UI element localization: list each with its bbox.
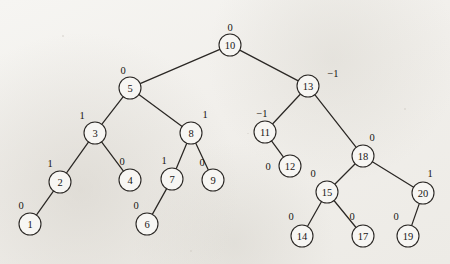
tree-node[interactable]: 13−1 [297,68,339,98]
node-balance-factor-label: 0 [120,65,125,76]
node-key-label: 4 [127,175,133,186]
node-key-label: 12 [285,161,296,172]
tree-edge [272,141,284,157]
node-balance-factor-label: 0 [349,211,354,222]
tree-edge [36,191,53,215]
node-key-label: 10 [225,40,236,51]
tree-node[interactable]: 201 [412,168,434,205]
node-key-label: 2 [57,177,62,188]
node-balance-factor-label: 0 [119,156,124,167]
node-key-label: 8 [188,128,193,139]
tree-edge [307,202,321,227]
tree-edge [139,95,182,127]
node-key-label: 18 [358,151,369,162]
tree-node[interactable]: 11−1 [254,108,276,144]
tree-node[interactable]: 120 [265,155,301,177]
node-balance-factor-label: 0 [310,168,315,179]
node-balance-factor-label: 1 [202,109,207,120]
tree-node[interactable]: 10 [18,200,41,236]
node-key-label: 6 [144,219,149,230]
node-key-label: 17 [358,231,369,242]
node-balance-factor-label: 0 [369,132,374,143]
tree-edge [315,95,356,148]
node-balance-factor-label: 0 [18,200,23,211]
node-key-label: 9 [210,175,215,186]
node-balance-factor-label: 0 [199,157,204,168]
figure-canvas: 1005013−1318111−118021407190120150201106… [0,0,450,264]
tree-node[interactable]: 100 [219,22,241,57]
tree-node[interactable]: 180 [352,132,375,168]
node-layer: 1005013−1318111−118021407190120150201106… [18,22,434,248]
tree-edge [335,164,355,184]
tree-edge [176,143,187,169]
tree-node[interactable]: 21 [47,158,71,194]
node-balance-factor-label: 0 [227,22,232,33]
tree-node[interactable]: 140 [288,211,313,248]
tree-node[interactable]: 60 [133,200,158,236]
node-key-label: 15 [322,187,333,198]
tree-node[interactable]: 90 [199,157,224,192]
node-key-label: 20 [418,188,429,199]
node-key-label: 11 [260,127,270,138]
tree-edge [240,50,299,81]
tree-node[interactable]: 150 [310,168,338,204]
node-key-label: 19 [403,231,414,242]
node-balance-factor-label: 1 [161,155,166,166]
tree-node[interactable]: 31 [79,110,106,145]
node-key-label: 5 [127,83,132,94]
node-balance-factor-label: −1 [256,108,267,119]
node-balance-factor-label: 1 [427,168,432,179]
node-balance-factor-label: 0 [265,161,270,172]
tree-node[interactable]: 170 [349,211,374,248]
node-key-label: 14 [297,231,308,242]
tree-edge [152,189,166,215]
node-key-label: 1 [27,219,32,230]
node-balance-factor-label: 0 [288,211,293,222]
node-key-label: 3 [92,128,97,139]
node-key-label: 7 [169,174,174,185]
tree-node[interactable]: 81 [180,109,208,145]
avl-tree-diagram: 1005013−1318111−118021407190120150201106… [0,0,450,264]
tree-node[interactable]: 50 [119,65,141,100]
tree-edge [102,97,123,125]
tree-node[interactable]: 40 [119,156,141,192]
node-balance-factor-label: −1 [327,68,338,79]
node-key-label: 13 [303,81,314,92]
tree-edge [66,142,88,173]
node-balance-factor-label: 0 [133,200,138,211]
node-balance-factor-label: 1 [47,158,52,169]
node-balance-factor-label: 1 [79,110,84,121]
node-balance-factor-label: 0 [393,211,398,222]
tree-edge [372,162,413,187]
tree-edge [273,94,301,124]
tree-edge [412,203,420,225]
tree-edge [140,49,220,83]
